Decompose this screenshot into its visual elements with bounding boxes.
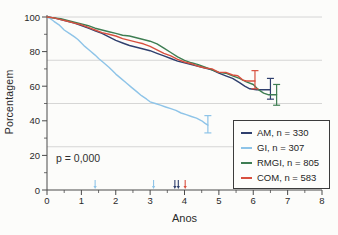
series-line-gi xyxy=(47,17,208,125)
x-tick-label: 6 xyxy=(251,195,256,206)
censor-mark-arrowhead-gi xyxy=(152,186,155,189)
p-value-annotation: p = 0,000 xyxy=(56,152,100,164)
chart-canvas: 012345678020406080100 xyxy=(0,0,338,235)
legend-item-am: AM, n = 330 xyxy=(241,127,325,138)
x-tick-label: 2 xyxy=(113,195,118,206)
censor-mark-arrowhead-com xyxy=(184,186,187,189)
series-line-com xyxy=(47,17,255,81)
x-tick-label: 1 xyxy=(79,195,84,206)
x-tick-label: 4 xyxy=(182,195,187,206)
y-tick-label: 100 xyxy=(24,12,40,23)
y-tick-label: 0 xyxy=(35,185,40,196)
legend-line-swatch-am xyxy=(241,132,252,134)
y-tick-label: 40 xyxy=(29,115,40,126)
legend-label-gi: GI, n = 307 xyxy=(257,142,304,153)
y-tick-label: 60 xyxy=(29,81,40,92)
legend-label-rmgi: RMGI, n = 805 xyxy=(257,157,319,168)
x-tick-label: 3 xyxy=(147,195,152,206)
x-tick-label: 5 xyxy=(216,195,221,206)
y-tick-label: 20 xyxy=(29,150,40,161)
x-axis-label: Anos xyxy=(47,212,322,224)
legend-item-com: COM, n = 583 xyxy=(241,172,325,183)
legend-item-gi: GI, n = 307 xyxy=(241,142,325,153)
y-tick-label: 80 xyxy=(29,46,40,57)
legend-line-swatch-rmgi xyxy=(241,162,252,164)
legend-label-am: AM, n = 330 xyxy=(257,127,309,138)
series-line-rmgi xyxy=(47,17,277,95)
y-axis-label: Porcentagem xyxy=(3,47,15,157)
censor-mark-arrowhead-am xyxy=(177,186,180,189)
legend-line-swatch-com xyxy=(241,177,252,179)
legend: AM, n = 330 GI, n = 307 RMGI, n = 805 CO… xyxy=(233,120,330,189)
censor-mark-arrowhead-gi xyxy=(94,186,97,189)
survival-chart-figure: 012345678020406080100 Porcentagem Anos p… xyxy=(0,0,338,235)
x-tick-label: 0 xyxy=(44,195,49,206)
legend-item-rmgi: RMGI, n = 805 xyxy=(241,157,325,168)
x-tick-label: 7 xyxy=(285,195,290,206)
legend-label-com: COM, n = 583 xyxy=(257,172,316,183)
series-line-am xyxy=(47,17,270,90)
censor-mark-arrowhead-am xyxy=(173,186,176,189)
legend-line-swatch-gi xyxy=(241,147,252,149)
x-tick-label: 8 xyxy=(319,195,324,206)
